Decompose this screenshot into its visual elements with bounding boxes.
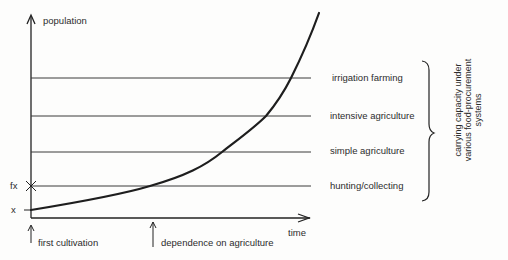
level-label-simple-agriculture: simple agriculture (330, 145, 404, 156)
time-marker-dependence-on-agriculture: dependence on agriculture (161, 237, 274, 248)
population-curve (31, 13, 319, 210)
time-marker-first-cultivation: first cultivation (38, 237, 98, 248)
diagram-canvas (0, 0, 508, 260)
x-axis-label: time (288, 227, 306, 238)
brace-label-line-3: systems (473, 40, 483, 180)
level-label-hunting-collecting: hunting/collecting (330, 180, 403, 191)
x-marker-label: x (11, 204, 16, 215)
brace-label-line-1: carrying capacity under (453, 40, 463, 180)
y-axis-label: population (43, 15, 87, 26)
level-label-irrigation-farming: irrigation farming (332, 72, 403, 83)
brace-label-line-2: various food-procurement (463, 40, 473, 180)
curly-brace-icon (422, 61, 434, 201)
fx-marker-label: fx (10, 180, 17, 191)
level-label-intensive-agriculture: intensive agriculture (330, 110, 415, 121)
